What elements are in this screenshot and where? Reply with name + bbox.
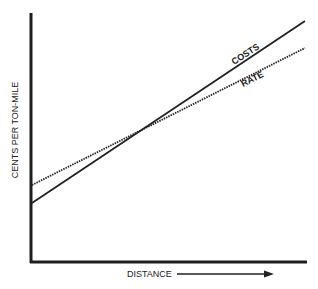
- chart: COSTS RATE CENTS PER TON-MILE DISTANCE: [0, 0, 318, 289]
- rate-label: RATE: [239, 69, 265, 89]
- arrow-right-icon: [177, 271, 274, 278]
- y-axis-label: CENTS PER TON-MILE: [10, 82, 20, 179]
- costs-line: [32, 21, 305, 203]
- x-axis-label: DISTANCE: [127, 269, 172, 279]
- rate-line: [32, 48, 305, 185]
